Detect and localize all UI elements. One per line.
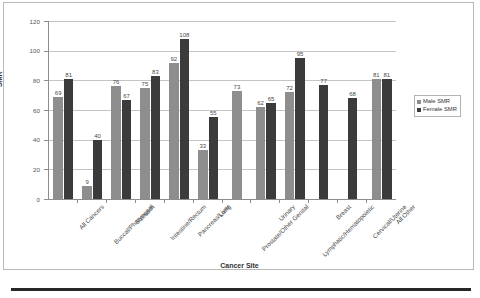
bar-value-label: 33 <box>199 143 206 149</box>
x-axis-category-label: All Cancers <box>78 203 106 231</box>
legend-swatch-female-icon <box>417 108 421 112</box>
x-axis-tick-mark <box>308 200 309 203</box>
y-axis-tick-label: 80 <box>12 77 40 84</box>
bar-value-label: 81 <box>65 72 72 78</box>
bar-value-label: 92 <box>171 56 178 62</box>
bar-female: 95 <box>295 58 305 199</box>
y-axis-tick-mark <box>44 140 48 141</box>
bar-value-label: 73 <box>234 84 241 90</box>
bar-value-label: 65 <box>268 96 275 102</box>
gridline <box>49 110 396 111</box>
x-axis-tick-mark <box>164 200 165 203</box>
x-axis-tick-mark <box>193 200 194 203</box>
bar-value-label: 108 <box>179 32 189 38</box>
bar-value-label: 95 <box>297 51 304 57</box>
y-axis-title: SMR <box>0 71 3 87</box>
bar-value-label: 69 <box>55 90 62 96</box>
bar-male: 69 <box>53 97 63 199</box>
figure-border: SMR Cancer Site 698194076677583921083355… <box>3 2 474 270</box>
y-axis-tick-mark <box>44 80 48 81</box>
bottom-rule-divider <box>11 288 471 291</box>
bar-female: 77 <box>319 85 329 199</box>
y-axis-tick-mark <box>44 199 48 200</box>
legend-label-female: Female SMR <box>423 107 457 113</box>
bar-value-label: 81 <box>383 72 390 78</box>
bar-value-label: 81 <box>373 72 380 78</box>
y-axis-tick-mark <box>44 51 48 52</box>
bar-male: 81 <box>372 79 382 199</box>
legend-item-male: Male SMR <box>417 98 457 106</box>
y-axis-tick-mark <box>44 21 48 22</box>
bar-male: 75 <box>140 88 150 199</box>
x-axis-category-label: Breast <box>334 203 352 221</box>
bar-value-label: 77 <box>320 78 327 84</box>
legend-item-female: Female SMR <box>417 106 457 114</box>
x-axis-tick-mark <box>222 200 223 203</box>
bar-value-label: 83 <box>152 69 159 75</box>
plot-area: 6981940766775839210833557362657295776881… <box>48 21 396 200</box>
bar-female: 81 <box>64 79 74 199</box>
y-axis-tick-label: 40 <box>12 136 40 143</box>
bar-male: 62 <box>256 107 266 199</box>
x-axis-title: Cancer Site <box>4 262 475 269</box>
legend-label-male: Male SMR <box>423 99 450 105</box>
bar-value-label: 75 <box>142 81 149 87</box>
bar-female: 108 <box>180 39 190 199</box>
bar-female: 67 <box>122 100 132 199</box>
bar-value-label: 40 <box>94 133 101 139</box>
chart-legend: Male SMR Female SMR <box>414 95 461 117</box>
bar-value-label: 55 <box>210 110 217 116</box>
x-axis-tick-mark <box>106 200 107 203</box>
bar-value-label: 67 <box>123 93 130 99</box>
bar-male: 33 <box>198 150 208 199</box>
legend-swatch-male-icon <box>417 100 421 104</box>
x-axis-tick-mark <box>250 200 251 203</box>
y-axis-tick-label: 0 <box>12 196 40 203</box>
bar-value-label: 62 <box>257 100 264 106</box>
y-axis-tick-label: 60 <box>12 107 40 114</box>
x-axis-tick-mark <box>135 200 136 203</box>
bar-value-label: 68 <box>349 91 356 97</box>
gridline <box>49 51 396 52</box>
x-axis-tick-mark <box>337 200 338 203</box>
gridline <box>49 21 396 22</box>
y-axis-tick-mark <box>44 110 48 111</box>
bar-female: 65 <box>266 103 276 199</box>
bar-value-label: 76 <box>113 79 120 85</box>
x-axis-tick-mark <box>366 200 367 203</box>
x-axis-category-label: Lung <box>217 203 232 218</box>
bar-female: 40 <box>93 140 103 199</box>
x-axis-tick-mark <box>279 200 280 203</box>
bar-value-label: 72 <box>286 85 293 91</box>
x-axis-tick-mark <box>77 200 78 203</box>
y-axis-tick-mark <box>44 169 48 170</box>
bar-male: 9 <box>82 186 92 199</box>
bar-male: 72 <box>285 92 295 199</box>
bar-female: 68 <box>348 98 358 199</box>
bar-male: 73 <box>232 91 242 199</box>
bar-value-label: 9 <box>85 179 88 185</box>
bar-female: 81 <box>382 79 392 199</box>
y-axis-tick-label: 100 <box>12 47 40 54</box>
bar-male: 76 <box>111 86 121 199</box>
bar-female: 55 <box>209 117 219 199</box>
bar-male: 92 <box>169 63 179 199</box>
bar-female: 83 <box>151 76 161 199</box>
chart-figure: SMR Cancer Site 698194076677583921083355… <box>0 0 480 298</box>
y-axis-tick-label: 20 <box>12 166 40 173</box>
gridline <box>49 80 396 81</box>
y-axis-tick-label: 120 <box>12 18 40 25</box>
